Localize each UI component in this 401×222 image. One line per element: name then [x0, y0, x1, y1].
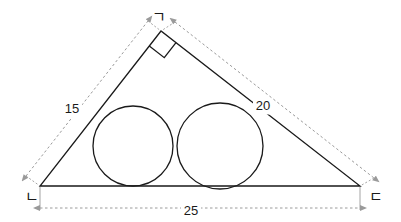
geometry-figure: 15 20 25 ㄱ ㄴ ㄷ	[0, 0, 401, 222]
dimension-side-right: 20	[161, 22, 374, 186]
dimension-base: 25	[40, 187, 360, 220]
dimension-side-left: 15	[26, 21, 161, 186]
dimension-line-left	[26, 21, 148, 176]
circle-right	[177, 103, 263, 189]
geometry-canvas: 15 20 25 ㄱ ㄴ ㄷ	[0, 0, 401, 222]
dimension-extension-left-start	[26, 176, 40, 186]
vertex-label-bottom-right: ㄷ	[369, 188, 383, 205]
vertex-label-bottom-left: ㄴ	[25, 188, 39, 205]
inscribed-circles	[93, 103, 263, 189]
dimension-extension-right-end	[360, 178, 374, 186]
dimension-line-right	[175, 22, 374, 178]
circle-left	[93, 106, 173, 186]
dimension-label-20: 20	[256, 98, 270, 113]
vertex-label-apex: ㄱ	[152, 8, 166, 25]
right-angle-marker	[149, 43, 176, 58]
dimension-label-15: 15	[65, 101, 79, 116]
right-angle-square-icon	[149, 43, 176, 58]
dimension-label-25: 25	[184, 203, 198, 218]
